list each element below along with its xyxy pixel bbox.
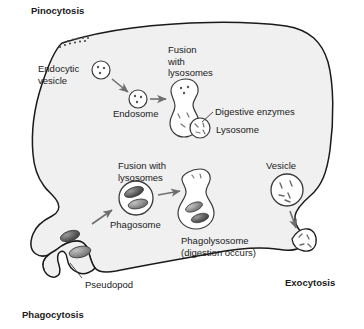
lysosome-icon: [190, 118, 210, 138]
phagosome-icon: [119, 181, 153, 215]
label-fusion-with-lysosomes-mid: Fusion with lysosomes: [118, 160, 166, 183]
label-phagocytosis: Phagocytosis: [22, 309, 84, 320]
label-exocytosis: Exocytosis: [285, 277, 335, 288]
secretory-vesicle-icon: [271, 174, 303, 206]
endosome-icon: [129, 90, 147, 108]
label-endocytic-vesicle: Endocytic vesicle: [38, 63, 79, 86]
label-lysosome: Lysosome: [216, 124, 259, 135]
phagolysosome-icon: [178, 169, 214, 229]
label-fusion-with-lysosomes-top: Fusion with lysosomes: [168, 44, 213, 79]
label-endosome: Endosome: [113, 108, 158, 119]
label-vesicle: Vesicle: [266, 160, 296, 171]
label-phagosome: Phagosome: [110, 219, 161, 230]
label-digestive-enzymes: Digestive enzymes: [215, 106, 295, 117]
label-pseudopod: Pseudopod: [85, 279, 133, 290]
label-pinocytosis: Pinocytosis: [31, 5, 84, 16]
diagram-canvas: Pinocytosis Endocytic vesicle Endosome F…: [0, 0, 364, 329]
label-phagolysosome: Phagolysosome (digestion occurs): [181, 235, 256, 258]
small-vesicle-icon: [92, 61, 110, 79]
